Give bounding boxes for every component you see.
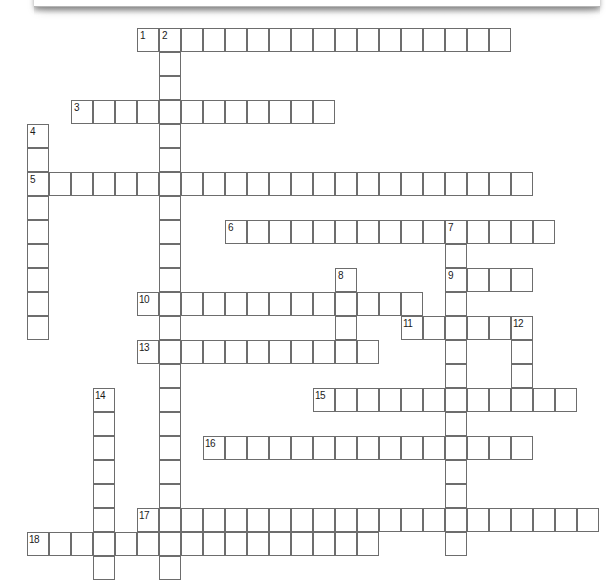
crossword-cell[interactable] (203, 292, 225, 316)
crossword-cell[interactable] (467, 508, 489, 532)
crossword-cell[interactable] (313, 220, 335, 244)
crossword-cell[interactable] (269, 28, 291, 52)
crossword-cell[interactable] (357, 220, 379, 244)
crossword-cell[interactable] (445, 364, 467, 388)
crossword-cell[interactable] (291, 508, 313, 532)
crossword-cell[interactable] (225, 100, 247, 124)
crossword-cell[interactable] (93, 172, 115, 196)
crossword-cell[interactable] (401, 508, 423, 532)
crossword-cell[interactable] (93, 460, 115, 484)
crossword-cell[interactable] (401, 388, 423, 412)
crossword-cell[interactable] (357, 436, 379, 460)
crossword-cell[interactable] (423, 316, 445, 340)
crossword-cell[interactable] (115, 100, 137, 124)
crossword-cell[interactable] (247, 100, 269, 124)
crossword-cell[interactable] (313, 532, 335, 556)
crossword-cell[interactable] (511, 220, 533, 244)
crossword-cell[interactable] (159, 508, 181, 532)
crossword-cell[interactable] (159, 268, 181, 292)
crossword-cell[interactable] (445, 436, 467, 460)
crossword-cell[interactable] (335, 340, 357, 364)
crossword-cell-8[interactable]: 8 (335, 268, 357, 292)
crossword-cell[interactable] (445, 244, 467, 268)
crossword-cell[interactable] (269, 172, 291, 196)
crossword-cell-13[interactable]: 13 (137, 340, 159, 364)
crossword-cell[interactable] (445, 292, 467, 316)
crossword-cell[interactable] (159, 412, 181, 436)
crossword-cell-6[interactable]: 6 (225, 220, 247, 244)
crossword-cell[interactable] (291, 292, 313, 316)
crossword-cell[interactable] (93, 508, 115, 532)
crossword-grid[interactable]: 123456798101112131415161718 (0, 0, 606, 584)
crossword-cell[interactable] (269, 532, 291, 556)
crossword-cell[interactable] (423, 388, 445, 412)
crossword-cell[interactable] (423, 220, 445, 244)
crossword-cell[interactable] (181, 28, 203, 52)
crossword-cell[interactable] (291, 172, 313, 196)
crossword-cell[interactable] (467, 388, 489, 412)
crossword-cell[interactable] (93, 412, 115, 436)
crossword-cell[interactable] (379, 388, 401, 412)
crossword-cell[interactable] (159, 292, 181, 316)
crossword-cell[interactable] (159, 484, 181, 508)
crossword-cell[interactable] (401, 172, 423, 196)
crossword-cell[interactable] (335, 316, 357, 340)
crossword-cell[interactable] (247, 172, 269, 196)
crossword-cell-18[interactable]: 18 (27, 532, 49, 556)
crossword-cell[interactable] (445, 412, 467, 436)
crossword-cell[interactable] (335, 508, 357, 532)
crossword-cell[interactable] (511, 388, 533, 412)
crossword-cell[interactable] (423, 436, 445, 460)
crossword-cell-3[interactable]: 3 (71, 100, 93, 124)
crossword-cell[interactable] (445, 484, 467, 508)
crossword-cell[interactable] (159, 556, 181, 580)
crossword-cell[interactable] (225, 436, 247, 460)
crossword-cell-4[interactable]: 4 (27, 124, 49, 148)
crossword-cell[interactable] (357, 292, 379, 316)
crossword-cell[interactable] (269, 436, 291, 460)
crossword-cell[interactable] (93, 100, 115, 124)
crossword-cell-17[interactable]: 17 (137, 508, 159, 532)
crossword-cell[interactable] (159, 436, 181, 460)
crossword-cell[interactable] (313, 508, 335, 532)
crossword-cell[interactable] (379, 172, 401, 196)
crossword-cell[interactable] (159, 196, 181, 220)
crossword-cell[interactable] (71, 172, 93, 196)
crossword-cell[interactable] (225, 172, 247, 196)
crossword-cell[interactable] (379, 292, 401, 316)
crossword-cell[interactable] (445, 28, 467, 52)
crossword-cell[interactable] (357, 508, 379, 532)
crossword-cell[interactable] (225, 28, 247, 52)
crossword-cell[interactable] (291, 340, 313, 364)
crossword-cell[interactable] (159, 100, 181, 124)
crossword-cell[interactable] (159, 340, 181, 364)
crossword-cell[interactable] (401, 292, 423, 316)
crossword-cell[interactable] (379, 436, 401, 460)
crossword-cell[interactable] (467, 172, 489, 196)
crossword-cell[interactable] (555, 388, 577, 412)
crossword-cell[interactable] (335, 292, 357, 316)
crossword-cell-9[interactable]: 9 (445, 268, 467, 292)
crossword-cell[interactable] (357, 172, 379, 196)
crossword-cell[interactable] (225, 340, 247, 364)
crossword-cell[interactable] (445, 460, 467, 484)
crossword-cell[interactable] (489, 388, 511, 412)
crossword-cell[interactable] (27, 220, 49, 244)
crossword-cell[interactable] (401, 28, 423, 52)
crossword-cell[interactable] (93, 484, 115, 508)
crossword-cell[interactable] (269, 100, 291, 124)
crossword-cell[interactable] (159, 148, 181, 172)
crossword-cell-5[interactable]: 5 (27, 172, 49, 196)
crossword-cell[interactable] (313, 436, 335, 460)
crossword-cell[interactable] (291, 28, 313, 52)
crossword-cell[interactable] (379, 508, 401, 532)
crossword-cell[interactable] (159, 460, 181, 484)
crossword-cell[interactable] (115, 172, 137, 196)
crossword-cell[interactable] (269, 292, 291, 316)
crossword-cell[interactable] (49, 532, 71, 556)
crossword-cell[interactable] (357, 388, 379, 412)
crossword-cell[interactable] (511, 268, 533, 292)
crossword-cell[interactable] (203, 172, 225, 196)
crossword-cell[interactable] (335, 172, 357, 196)
crossword-cell[interactable] (225, 532, 247, 556)
